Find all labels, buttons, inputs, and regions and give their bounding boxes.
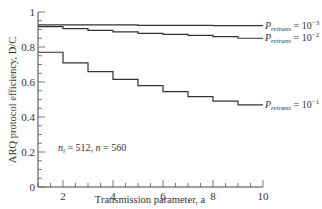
series-label: Pretrans = 10−2: [264, 31, 320, 45]
y-tick-label: 0.2: [21, 146, 35, 158]
series-line: [38, 27, 263, 39]
arq-efficiency-chart: 00.20.40.60.81246810 Pretrans = 10−3Pret…: [0, 0, 322, 209]
y-tick-label: 0.4: [21, 111, 35, 123]
y-tick-label: 1: [30, 6, 36, 18]
series-label: Pretrans = 10−1: [264, 98, 320, 112]
x-tick-label: 10: [258, 190, 270, 202]
axis-frame: [38, 12, 263, 187]
y-tick-label: 0: [30, 181, 36, 193]
axes: 00.20.40.60.81246810: [21, 6, 269, 202]
y-tick-label: 0.8: [21, 41, 35, 53]
x-tick-label: 2: [60, 190, 66, 202]
x-tick-label: 8: [210, 190, 216, 202]
y-tick-label: 0.6: [21, 76, 35, 88]
series-line: [38, 25, 263, 26]
parameter-annotation: ni = 512, n = 560: [58, 142, 126, 155]
series-lines: [38, 25, 263, 105]
y-axis-title: ARQ protocol efficiency, D/C: [7, 37, 18, 163]
series-line: [38, 52, 263, 105]
series-labels: Pretrans = 10−3Pretrans = 10−2Pretrans =…: [264, 19, 320, 112]
x-axis-title: Transmission parameter, a: [95, 194, 206, 205]
